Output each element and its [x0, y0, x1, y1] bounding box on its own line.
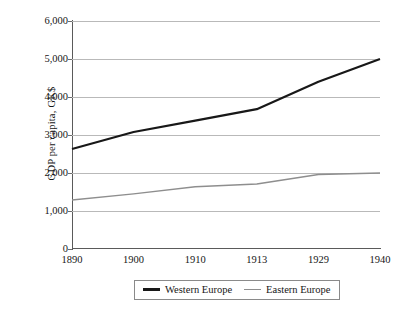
- series-line-eastern-europe: [72, 173, 380, 200]
- y-axis-tick-label: 1,000: [8, 206, 68, 216]
- y-axis-tick-label: 0: [8, 244, 68, 254]
- legend-label-western-europe: Western Europe: [165, 284, 232, 295]
- series-line-western-europe: [72, 59, 380, 149]
- y-axis-tick-label: 5,000: [8, 54, 68, 64]
- y-axis-tick-label: 4,000: [8, 92, 68, 102]
- x-axis-tick-label: 1929: [288, 254, 348, 265]
- legend-item-eastern-europe: Eastern Europe: [244, 284, 330, 295]
- x-axis-tick-label: 1890: [42, 254, 102, 265]
- x-axis-tick-label: 1940: [350, 254, 404, 265]
- x-axis-tick-label: 1913: [227, 254, 287, 265]
- eastern-europe-line-swatch: [244, 289, 261, 290]
- y-axis-tick-mark: [68, 249, 72, 250]
- legend-label-eastern-europe: Eastern Europe: [266, 284, 330, 295]
- y-axis-tick-label: 6,000: [8, 16, 68, 26]
- x-axis-tick-label: 1910: [165, 254, 225, 265]
- western-europe-line-swatch: [143, 288, 160, 290]
- data-series-group: [72, 21, 380, 249]
- gdp-per-capita-line-chart: GDP per capita, GK$ 01,0002,0003,0004,00…: [0, 0, 404, 311]
- legend-item-western-europe: Western Europe: [143, 284, 232, 295]
- chart-legend: Western Europe Eastern Europe: [134, 280, 340, 300]
- y-axis-tick-label: 3,000: [8, 130, 68, 140]
- y-axis-tick-label: 2,000: [8, 168, 68, 178]
- x-axis-tick-label: 1900: [104, 254, 164, 265]
